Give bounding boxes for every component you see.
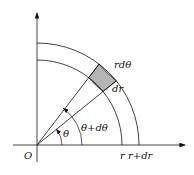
- r-label: r: [120, 150, 125, 161]
- radial-width-label: dr: [112, 83, 123, 94]
- theta-label: θ: [63, 128, 69, 139]
- angle-arc-theta: [56, 129, 62, 145]
- theta-plus-dtheta-label: θ+dθ: [81, 122, 108, 133]
- diagram-canvas: [0, 0, 194, 175]
- ray-theta: [37, 81, 116, 145]
- origin-label: O: [24, 150, 32, 161]
- angle-arc-theta-plus-dtheta: [64, 109, 83, 146]
- polar-area-element-diagram: O r r+dr θ θ+dθ rdθ dr: [0, 0, 194, 175]
- r-plus-dr-label: r+dr: [128, 150, 152, 161]
- arc-length-label: rdθ: [114, 59, 131, 70]
